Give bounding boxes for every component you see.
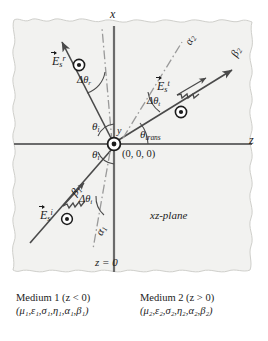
delta-theta-subscript: r — [88, 79, 91, 87]
delta-theta-symbol: Δθ — [77, 74, 88, 85]
medium-background-region — [13, 19, 253, 272]
theta-trans-label: θtrans — [140, 128, 161, 142]
theta-subscript: trans — [145, 133, 160, 142]
origin-marker — [108, 138, 121, 151]
axis-label-y: y — [117, 125, 121, 136]
theta-i-lower-label: θi — [92, 148, 99, 162]
axis-label-z: z — [249, 133, 254, 148]
delta-theta-t-label: Δθt — [147, 95, 160, 108]
theta-subscript: i — [97, 153, 99, 162]
figure-canvas: x z y (0, 0, 0) z = 0 xz-plane θi θi θtr… — [0, 0, 268, 341]
field-symbol: E — [157, 79, 164, 93]
transmitted-electric-field-label: Est — [157, 79, 170, 94]
medium-1-title: Medium 1 (z < 0) — [16, 291, 90, 304]
origin-label: (0, 0, 0) — [122, 148, 155, 159]
reflected-electric-field-label: Esr — [52, 54, 66, 69]
field-superscript: r — [63, 54, 66, 63]
field-superscript: t — [168, 79, 170, 88]
medium-2-caption: Medium 2 (z > 0) (μ₂,ε₂,σ₂,η₂,α₂,β₂) — [140, 291, 214, 317]
delta-theta-subscript: i — [90, 198, 92, 206]
plane-label-text: xz-plane — [150, 209, 187, 221]
incident-electric-field-label: Esi — [40, 208, 53, 223]
field-symbol: E — [52, 54, 59, 68]
field-superscript: i — [51, 208, 53, 217]
delta-theta-subscript: t — [158, 100, 160, 108]
interface-label: z = 0 — [95, 256, 118, 268]
medium-2-params: (μ₂,ε₂,σ₂,η₂,α₂,β₂) — [140, 304, 214, 317]
vector-arrow-icon — [39, 206, 44, 207]
plane-label: xz-plane — [150, 209, 187, 221]
vector-arrow-icon — [156, 77, 161, 78]
medium-2-title: Medium 2 (z > 0) — [140, 291, 214, 304]
field-symbol: E — [40, 208, 47, 222]
theta-i-upper-label: θi — [92, 120, 99, 134]
vector-arrow-icon — [51, 52, 56, 53]
axis-label-x: x — [110, 7, 115, 22]
medium-1-params: (μ₁,ε₁,σ₁,η₁,α₁,β₁) — [16, 304, 90, 317]
delta-theta-symbol: Δθ — [147, 95, 158, 106]
medium-1-caption: Medium 1 (z < 0) (μ₁,ε₁,σ₁,η₁,α₁,β₁) — [16, 291, 90, 317]
delta-theta-r-label: Δθr — [77, 74, 91, 87]
theta-subscript: i — [97, 125, 99, 134]
